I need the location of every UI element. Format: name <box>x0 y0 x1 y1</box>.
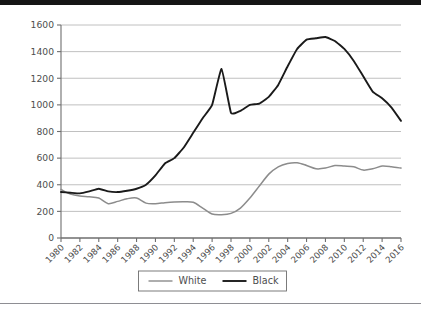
legend-label-white: White <box>179 275 207 286</box>
y-axis-tick-label: 200 <box>36 206 54 217</box>
x-axis-tick-label: 1996 <box>194 242 217 265</box>
y-axis-tick-label: 1200 <box>31 73 55 84</box>
x-axis-tick-label: 1990 <box>138 242 161 265</box>
x-axis-tick-label: 1980 <box>43 242 66 265</box>
x-axis-tick-label: 2006 <box>289 242 312 265</box>
x-axis-tick-label: 2002 <box>251 242 274 265</box>
x-axis-tick-label: 2014 <box>364 242 387 265</box>
y-axis-tick-label: 800 <box>36 126 54 137</box>
x-axis-tick-label: 2004 <box>270 242 293 265</box>
legend: WhiteBlack <box>139 271 287 291</box>
y-axis-tick-label: 0 <box>48 232 54 243</box>
data-series-group <box>61 37 401 215</box>
y-axis-tick-label: 1600 <box>31 19 55 30</box>
series-line-black <box>61 37 401 193</box>
x-axis-tick-label: 2000 <box>232 242 255 265</box>
x-axis-tick-label: 1998 <box>213 242 236 265</box>
y-axis-tick-label: 400 <box>36 179 54 190</box>
bottom-divider-rule <box>0 303 421 304</box>
series-line-white <box>61 163 401 215</box>
legend-label-black: Black <box>253 275 279 286</box>
y-axis-ticks-group <box>57 25 61 238</box>
y-axis-tick-label: 1400 <box>31 46 55 57</box>
y-axis-labels-group: 02004006008001000120014001600 <box>31 19 55 243</box>
y-axis-tick-label: 1000 <box>31 99 55 110</box>
line-chart: 02004006008001000120014001600 1980198219… <box>0 0 421 300</box>
x-axis-tick-label: 1982 <box>62 242 85 265</box>
x-axis-tick-label: 1994 <box>176 242 199 265</box>
x-axis-tick-label: 2012 <box>346 242 369 265</box>
x-axis-tick-label: 1992 <box>157 242 180 265</box>
x-axis-tick-label: 1988 <box>119 242 142 265</box>
x-axis-tick-label: 2010 <box>327 242 350 265</box>
x-axis-ticks-group <box>61 238 401 242</box>
chart-figure: 02004006008001000120014001600 1980198219… <box>0 0 421 313</box>
x-axis-labels-group: 1980198219841986198819901992199419961998… <box>43 242 406 265</box>
x-axis-tick-label: 2016 <box>383 242 406 265</box>
x-axis-tick-label: 1984 <box>81 242 104 265</box>
y-axis-tick-label: 600 <box>36 152 54 163</box>
x-axis-tick-label: 2008 <box>308 242 331 265</box>
x-axis-tick-label: 1986 <box>100 242 123 265</box>
